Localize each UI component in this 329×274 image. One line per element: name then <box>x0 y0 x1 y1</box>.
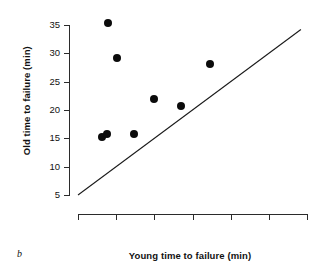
y-tick-10: 10 <box>64 167 69 168</box>
y-tick-label-15: 15 <box>49 132 60 143</box>
identity-reference-line <box>78 25 307 195</box>
y-tick-label-10: 10 <box>49 161 60 172</box>
y-axis-label: Old time to failure (min) <box>22 16 32 186</box>
data-point <box>130 130 138 138</box>
y-tick-25: 25 <box>64 82 69 83</box>
y-tick-5: 5 <box>64 195 69 196</box>
x-axis-label: Young time to failure (min) <box>60 251 320 261</box>
x-tick-25: 25 <box>231 215 232 220</box>
data-point <box>206 60 214 68</box>
x-tick-5: 5 <box>78 215 79 220</box>
x-tick-15: 15 <box>154 215 155 220</box>
x-tick-20: 20 <box>193 215 194 220</box>
data-point <box>103 130 111 138</box>
scatter-plot-figure: Old time to failure (min) 5101520253035 … <box>0 0 329 274</box>
panel-label: b <box>17 249 22 259</box>
y-tick-label-20: 20 <box>49 104 60 115</box>
y-axis-line <box>69 25 70 196</box>
x-tick-10: 10 <box>116 215 117 220</box>
data-point <box>113 54 121 62</box>
y-tick-label-30: 30 <box>49 47 60 58</box>
x-tick-30: 30 <box>269 215 270 220</box>
x-tick-35: 35 <box>307 215 308 220</box>
y-tick-30: 30 <box>64 53 69 54</box>
y-tick-35: 35 <box>64 25 69 26</box>
y-tick-20: 20 <box>64 110 69 111</box>
y-tick-15: 15 <box>64 138 69 139</box>
plot-area: 5101520253035 5101520253035 <box>78 25 307 195</box>
y-tick-label-5: 5 <box>55 189 60 200</box>
data-point <box>150 95 158 103</box>
y-tick-label-35: 35 <box>49 19 60 30</box>
y-tick-label-25: 25 <box>49 76 60 87</box>
